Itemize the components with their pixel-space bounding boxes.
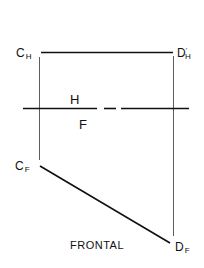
- label-d-h: D'H: [177, 46, 191, 61]
- line-cf-df: [40, 166, 170, 243]
- label-d-f: DF: [175, 240, 190, 255]
- fold-label-h: H: [70, 92, 79, 107]
- fold-label-f: F: [79, 117, 87, 132]
- orthographic-projection-diagram: CH D'H H F CF DF FRONTAL: [0, 0, 204, 268]
- label-c-f: CF: [15, 159, 30, 174]
- view-title: FRONTAL: [70, 239, 124, 251]
- label-c-h: CH: [16, 46, 32, 61]
